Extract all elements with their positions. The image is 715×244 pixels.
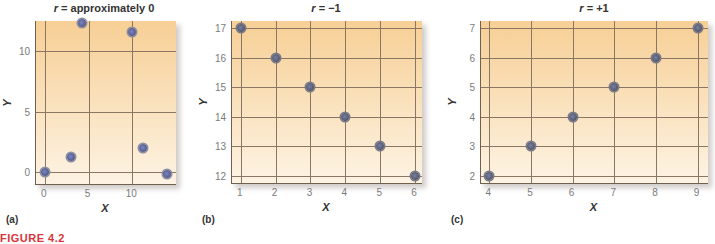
x-tick-label: 8 xyxy=(652,187,658,198)
gridline-vertical xyxy=(132,21,133,184)
gridline-horizontal xyxy=(36,112,176,113)
gridline-horizontal xyxy=(232,28,422,29)
gridline-horizontal xyxy=(232,87,422,88)
gridline-vertical xyxy=(310,21,311,183)
data-point xyxy=(569,113,577,121)
panel-label: (a) xyxy=(6,214,18,225)
x-axis-label: X xyxy=(101,202,108,214)
x-axis-label: X xyxy=(322,201,329,213)
panel-label: (b) xyxy=(202,214,215,225)
x-axis-label: X xyxy=(590,201,597,213)
y-tick-label: 5 xyxy=(469,82,475,93)
gridline-vertical xyxy=(276,21,277,183)
x-tick-label: 1 xyxy=(237,187,243,198)
gridline-horizontal xyxy=(481,87,708,88)
gridline-horizontal xyxy=(36,172,176,173)
data-point xyxy=(411,172,419,180)
data-point xyxy=(139,144,147,152)
y-tick-label: 13 xyxy=(215,141,226,152)
gridline-horizontal xyxy=(481,176,708,177)
x-tick-label: 5 xyxy=(85,188,91,199)
y-tick-label: 0 xyxy=(24,166,30,177)
gridline-horizontal xyxy=(481,58,708,59)
data-point xyxy=(41,168,49,176)
y-tick-label: 12 xyxy=(215,170,226,181)
y-tick-label: 2 xyxy=(469,170,475,181)
gridline-vertical xyxy=(241,21,242,183)
y-tick-label: 17 xyxy=(215,23,226,34)
y-tick-label: 16 xyxy=(215,52,226,63)
x-tick-label: 5 xyxy=(527,187,533,198)
title-text: = +1 xyxy=(584,2,609,14)
gridline-horizontal xyxy=(481,117,708,118)
x-tick-label: 3 xyxy=(307,187,313,198)
data-point xyxy=(67,153,75,161)
x-tick-label: 2 xyxy=(272,187,278,198)
chart-title: r = −1 xyxy=(311,2,340,14)
data-point xyxy=(78,19,86,27)
y-axis-label: Y xyxy=(446,98,458,105)
gridline-horizontal xyxy=(232,58,422,59)
x-tick-label: 10 xyxy=(126,188,137,199)
chart-title: r = +1 xyxy=(579,2,608,14)
plot-area xyxy=(35,21,176,185)
x-tick-label: 0 xyxy=(41,188,47,199)
plot-area xyxy=(480,21,708,184)
y-tick-label: 4 xyxy=(469,111,475,122)
data-point xyxy=(237,24,245,32)
gridline-vertical xyxy=(698,21,699,183)
y-tick-label: 7 xyxy=(469,23,475,34)
x-tick-label: 9 xyxy=(694,187,700,198)
x-tick-label: 4 xyxy=(486,187,492,198)
x-tick-label: 6 xyxy=(569,187,575,198)
chart-title: r = approximately 0 xyxy=(54,2,155,14)
data-point xyxy=(163,170,171,178)
gridline-vertical xyxy=(489,21,490,183)
gridline-vertical xyxy=(380,21,381,183)
y-axis-label: Y xyxy=(197,98,209,105)
gridline-vertical xyxy=(573,21,574,183)
y-tick-label: 10 xyxy=(19,46,30,57)
gridline-horizontal xyxy=(481,146,708,147)
gridline-horizontal xyxy=(481,28,708,29)
data-point xyxy=(652,54,660,62)
gridline-vertical xyxy=(45,21,46,184)
x-tick-label: 4 xyxy=(342,187,348,198)
y-tick-label: 14 xyxy=(215,111,226,122)
data-point xyxy=(306,83,314,91)
x-tick-label: 7 xyxy=(611,187,617,198)
gridline-vertical xyxy=(614,21,615,183)
y-tick-label: 5 xyxy=(24,106,30,117)
data-point xyxy=(128,28,136,36)
gridline-horizontal xyxy=(36,51,176,52)
title-text: = approximately 0 xyxy=(58,2,154,14)
gridline-horizontal xyxy=(232,146,422,147)
gridline-vertical xyxy=(345,21,346,183)
data-point xyxy=(610,83,618,91)
x-tick-label: 5 xyxy=(376,187,382,198)
gridline-horizontal xyxy=(232,117,422,118)
title-text: = −1 xyxy=(316,2,341,14)
y-axis-label: Y xyxy=(1,99,13,106)
data-point xyxy=(485,172,493,180)
gridline-vertical xyxy=(415,21,416,183)
gridline-vertical xyxy=(656,21,657,183)
gridline-horizontal xyxy=(232,176,422,177)
data-point xyxy=(527,142,535,150)
gridline-vertical xyxy=(531,21,532,183)
figure-caption: FIGURE 4.2 xyxy=(0,232,65,244)
plot-area xyxy=(231,21,422,184)
y-tick-label: 3 xyxy=(469,141,475,152)
y-tick-label: 6 xyxy=(469,52,475,63)
panel-label: (c) xyxy=(451,214,463,225)
x-tick-label: 6 xyxy=(411,187,417,198)
data-point xyxy=(272,54,280,62)
data-point xyxy=(376,142,384,150)
data-point xyxy=(694,24,702,32)
data-point xyxy=(341,113,349,121)
gridline-vertical xyxy=(89,21,90,184)
y-tick-label: 15 xyxy=(215,82,226,93)
